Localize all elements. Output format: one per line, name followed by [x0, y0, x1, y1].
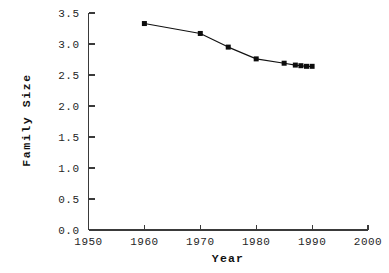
family-size-line-chart: 0.00.51.01.52.02.53.03.5 195019601970198… [0, 0, 389, 273]
x-tick-label: 2000 [354, 236, 382, 248]
data-point-marker [142, 21, 147, 26]
data-point-marker [198, 31, 203, 36]
y-tick-label: 2.0 [58, 101, 79, 113]
y-tick-label: 2.5 [58, 70, 79, 82]
y-tick-label: 1.0 [58, 163, 79, 175]
x-tick-label: 1950 [74, 236, 102, 248]
x-tick-label: 1980 [242, 236, 270, 248]
data-point-marker [282, 61, 287, 66]
x-tick-label: 1960 [130, 236, 158, 248]
data-point-marker [298, 63, 303, 68]
chart-screenshot: 0.00.51.01.52.02.53.03.5 195019601970198… [0, 0, 389, 273]
data-point-marker [310, 64, 315, 69]
y-tick-label: 1.5 [58, 132, 79, 144]
data-point-marker [304, 64, 309, 69]
y-axis-title: Family Size [20, 73, 33, 167]
x-tick-label: 1990 [298, 236, 326, 248]
x-axis-title: Year [212, 252, 244, 265]
data-point-marker [254, 56, 259, 61]
data-point-marker [226, 45, 231, 50]
data-point-marker [293, 63, 298, 68]
y-tick-label: 3.0 [58, 39, 79, 51]
x-tick-label: 1970 [186, 236, 214, 248]
y-tick-label: 0.5 [58, 194, 79, 206]
y-tick-label: 3.5 [58, 8, 79, 20]
